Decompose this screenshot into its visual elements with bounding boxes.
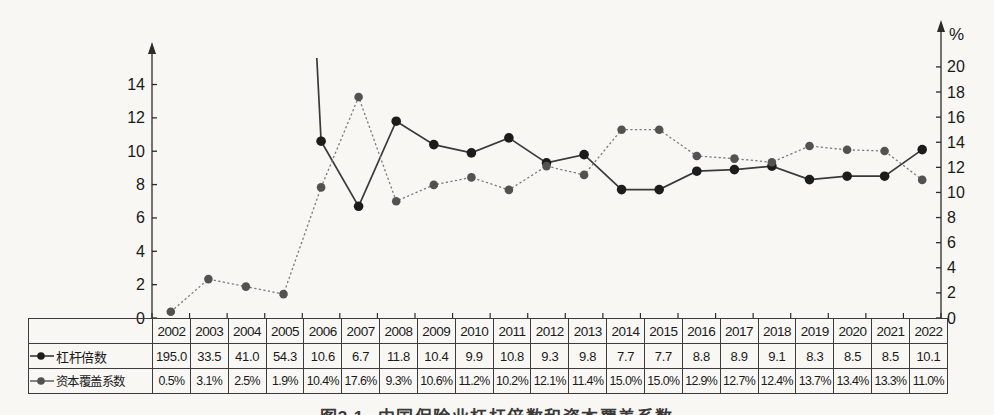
data-point-marker (542, 162, 551, 171)
right-axis-tick-label: 18 (947, 84, 965, 101)
left-axis-tick-label: 14 (127, 76, 145, 93)
coverage-value-cell: 12.1% (531, 369, 569, 394)
coverage-value-cell: 11.0% (909, 369, 947, 394)
table-spacer-cell (29, 319, 153, 344)
data-point-marker (805, 142, 814, 151)
leverage-value-cell: 195.0 (153, 344, 191, 369)
values-table: 2002200320042005200620072008200920102011… (28, 318, 948, 394)
data-point-marker (880, 147, 889, 156)
right-axis-tick-label: 10 (947, 184, 965, 201)
row-label-cell: 资本覆盖系数 (29, 369, 153, 394)
right-axis-unit-label: % (949, 25, 964, 44)
left-axis-tick-label: 6 (136, 209, 145, 226)
leverage-value-cell: 10.6 (304, 344, 342, 369)
year-header-row: 2002200320042005200620072008200920102011… (29, 319, 948, 344)
data-point-marker (617, 125, 626, 134)
coverage-value-cell: 12.4% (758, 369, 796, 394)
leverage-value-cell: 7.7 (607, 344, 645, 369)
leverage-value-cell: 8.5 (872, 344, 910, 369)
leverage-value-cell: 8.9 (720, 344, 758, 369)
leverage-value-cell: 9.9 (455, 344, 493, 369)
data-point-marker (467, 173, 476, 182)
data-point-marker (467, 148, 477, 158)
data-point-marker (730, 154, 739, 163)
data-point-marker (843, 146, 852, 155)
data-point-marker (655, 125, 664, 134)
figure-caption: 图3-1中国保险业杠杆倍数和资本覆盖系数 (0, 403, 994, 415)
leverage-value-cell: 9.1 (758, 344, 796, 369)
leverage-value-cell: 8.5 (834, 344, 872, 369)
right-axis-tick-label: 4 (947, 259, 956, 276)
data-point-marker (354, 93, 363, 102)
right-axis-tick-label: 2 (947, 284, 956, 301)
coverage-value-cell: 15.0% (644, 369, 682, 394)
left-axis-tick-label: 4 (136, 243, 145, 260)
year-cell: 2011 (493, 319, 531, 344)
right-axis-tick-label: 6 (947, 234, 956, 251)
coverage-row: 资本覆盖系数0.5%3.1%2.5%1.9%10.4%17.6%9.3%10.6… (29, 369, 948, 394)
data-point-marker (504, 133, 514, 143)
data-point-marker (391, 116, 401, 126)
year-cell: 2016 (682, 319, 720, 344)
data-point-marker (317, 183, 326, 192)
leverage-value-cell: 8.8 (682, 344, 720, 369)
year-cell: 2010 (455, 319, 493, 344)
leverage-legend-marker-icon (30, 351, 54, 361)
leverage-row: 杠杆倍数195.033.541.054.310.66.711.810.49.91… (29, 344, 948, 369)
leverage-value-cell: 10.4 (417, 344, 455, 369)
figure-title: 中国保险业杠杆倍数和资本覆盖系数 (378, 408, 674, 415)
data-point-marker (730, 165, 740, 175)
data-point-marker (279, 290, 288, 299)
right-axis-tick-label: 0 (947, 310, 956, 327)
leverage-value-cell: 7.7 (644, 344, 682, 369)
data-point-marker (918, 176, 927, 185)
left-axis-tick-label: 8 (136, 176, 145, 193)
axes (152, 30, 941, 318)
data-point-marker (842, 171, 852, 181)
year-cell: 2005 (266, 319, 304, 344)
data-point-marker (204, 275, 213, 284)
row-label-text: 资本覆盖系数 (56, 372, 124, 390)
coverage-value-cell: 3.1% (190, 369, 228, 394)
coverage-value-cell: 13.4% (834, 369, 872, 394)
year-cell: 2022 (909, 319, 947, 344)
coverage-value-cell: 15.0% (607, 369, 645, 394)
leverage-value-cell: 9.3 (531, 344, 569, 369)
figure-number: 图3-1 (320, 408, 364, 415)
left-axis-tick-label: 2 (136, 276, 145, 293)
coverage-value-cell: 0.5% (153, 369, 191, 394)
data-point-marker (617, 185, 627, 195)
data-point-marker (580, 171, 589, 180)
leverage-value-cell: 11.8 (380, 344, 418, 369)
coverage-value-cell: 11.4% (569, 369, 607, 394)
coverage-value-cell: 10.2% (493, 369, 531, 394)
coverage-value-cell: 1.9% (266, 369, 304, 394)
scanned-chart-figure: 0246810121402468101214161820% 2002200320… (0, 0, 994, 415)
right-axis: 02468101214161820% (936, 25, 965, 327)
coverage-value-cell: 10.4% (304, 369, 342, 394)
leverage-value-cell: 10.8 (493, 344, 531, 369)
data-point-marker (768, 158, 777, 167)
coverage-value-cell: 17.6% (342, 369, 380, 394)
coverage-value-cell: 10.6% (417, 369, 455, 394)
coverage-line (171, 97, 922, 312)
chart-data-table: 2002200320042005200620072008200920102011… (28, 318, 948, 394)
right-axis-tick-label: 20 (947, 58, 965, 75)
data-point-marker (167, 307, 176, 316)
leverage-series (166, 0, 927, 211)
left-axis-tick-label: 12 (127, 109, 145, 126)
data-point-marker (429, 140, 439, 150)
year-cell: 2015 (644, 319, 682, 344)
dual-axis-line-chart: 0246810121402468101214161820% (0, 0, 994, 330)
year-cell: 2021 (872, 319, 910, 344)
coverage-legend-marker-icon (30, 376, 54, 386)
data-point-marker (505, 186, 514, 195)
year-cell: 2009 (417, 319, 455, 344)
right-axis-tick-label: 12 (947, 159, 965, 176)
year-cell: 2020 (834, 319, 872, 344)
right-axis-tick-label: 14 (947, 134, 965, 151)
leverage-value-cell: 41.0 (228, 344, 266, 369)
coverage-value-cell: 13.3% (872, 369, 910, 394)
year-cell: 2014 (607, 319, 645, 344)
data-point-marker (316, 136, 326, 146)
